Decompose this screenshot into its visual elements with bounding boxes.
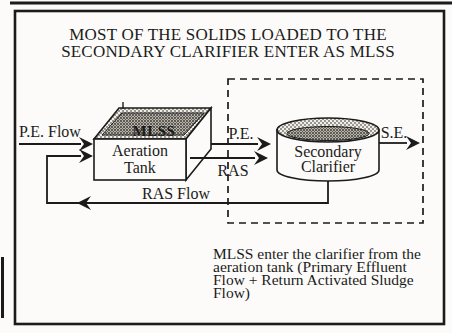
pe-flow-in-label: P.E. Flow [19,123,81,140]
scanned-slide: MOST OF THE SOLIDS LOADED TO THE SECONDA… [0,0,452,333]
se-short-label: S.E. [381,124,408,141]
clarifier-liquid-surface [287,127,369,141]
secondary-clarifier: Secondary Clarifier [277,118,379,181]
flow-diagram-canvas: MOST OF THE SOLIDS LOADED TO THE SECONDA… [0,0,452,333]
caption-line-4: Flow) [213,284,250,302]
mlss-label: MLSS [133,123,176,139]
ras-short-label: RAS [217,162,248,179]
pe-short-label: P.E. [229,125,254,142]
clarifier-label-line-2: Clarifier [301,158,356,175]
aeration-tank-label-line-2: Tank [124,159,156,176]
ras-flow-label: RAS Flow [142,185,210,202]
title-line-2: SECONDARY CLARIFIER ENTER AS MLSS [61,42,395,61]
aeration-tank-label-line-1: Aeration [112,142,168,159]
